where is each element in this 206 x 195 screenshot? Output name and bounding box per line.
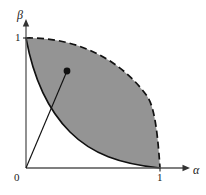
feasible-region-fill (26, 38, 160, 168)
beta-axis-label: β (17, 9, 23, 21)
origin-label: 0 (14, 172, 20, 183)
plot-canvas (0, 0, 206, 195)
math-region-figure: β α 1 1 0 (0, 0, 206, 195)
marked-point (64, 68, 71, 75)
x-axis-tick-label-1: 1 (157, 172, 163, 183)
alpha-axis-label: α (193, 164, 199, 176)
beta-axis-arrowhead (23, 19, 29, 27)
alpha-axis-arrowhead (183, 165, 191, 171)
y-axis-tick-label-1: 1 (15, 32, 21, 43)
